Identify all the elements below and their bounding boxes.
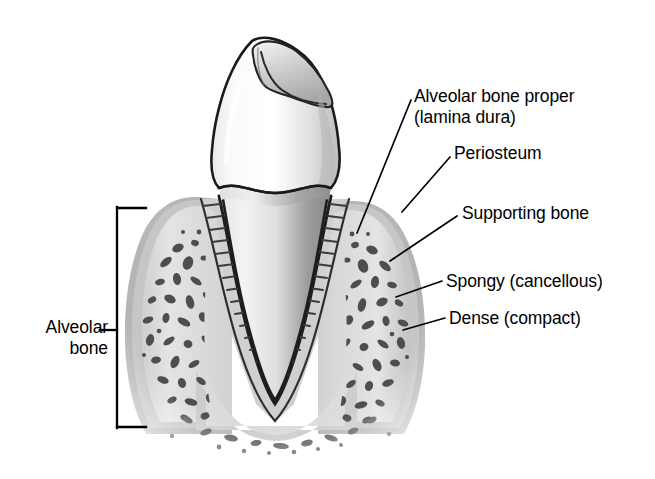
label-alveolar-bone-proper-line2: (lamina dura)	[414, 107, 516, 127]
label-alveolar-bone-line1: Alveolar	[46, 317, 108, 337]
label-alveolar-bone-line2: bone	[69, 338, 108, 358]
label-dense-compact: Dense (compact)	[449, 308, 581, 329]
anatomy-illustration	[0, 0, 655, 479]
label-alveolar-bone-proper-line1: Alveolar bone proper	[414, 86, 574, 106]
figure-canvas: Alveolar bone proper (lamina dura) Perio…	[0, 0, 655, 479]
leader-periosteum	[402, 157, 450, 212]
label-spongy-cancellous: Spongy (cancellous)	[446, 271, 603, 292]
label-periosteum: Periosteum	[454, 143, 542, 164]
label-supporting-bone: Supporting bone	[462, 203, 589, 224]
label-alveolar-bone: Alveolar bone	[8, 317, 108, 359]
label-alveolar-bone-proper: Alveolar bone proper (lamina dura)	[414, 86, 574, 128]
